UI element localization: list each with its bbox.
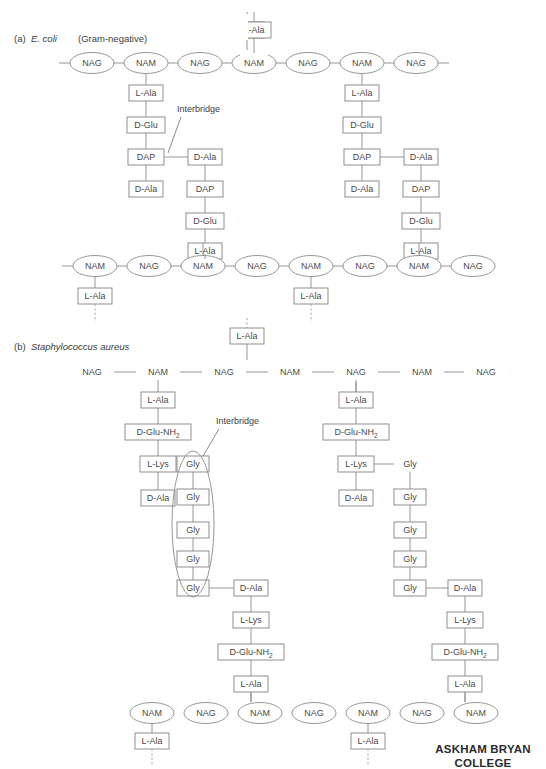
sugar-node: NAM bbox=[181, 256, 225, 277]
svg-text:D-Ala: D-Ala bbox=[147, 493, 170, 503]
panel-b: (b) Staphylococcus aureus L-Ala NAG NAM … bbox=[14, 318, 498, 765]
svg-text:D-Ala: D-Ala bbox=[345, 493, 368, 503]
sugar-node: NAM bbox=[397, 256, 441, 277]
svg-text:NAM: NAM bbox=[142, 708, 162, 718]
gly-box: Gly bbox=[177, 522, 209, 538]
svg-text:NAM: NAM bbox=[409, 261, 429, 271]
peptide-box: D-Glu-NH2 bbox=[323, 424, 389, 440]
gly-box: Gly bbox=[394, 489, 426, 505]
gly-box: Gly bbox=[177, 551, 209, 567]
gly-box: Gly bbox=[394, 551, 426, 567]
sugar-node: NAM bbox=[148, 367, 168, 377]
sugar-node: NAM bbox=[346, 703, 390, 724]
svg-text:L-Ala: L-Ala bbox=[141, 736, 162, 746]
peptide-box: L-Ala bbox=[351, 733, 385, 749]
svg-text:Gly: Gly bbox=[403, 459, 417, 469]
callout-label-interbridge-a: Interbridge bbox=[177, 104, 220, 114]
svg-text:NAG: NAG bbox=[463, 261, 483, 271]
svg-text:NAG: NAG bbox=[476, 367, 496, 377]
sugar-node: NAM bbox=[454, 703, 498, 724]
svg-text:L-Lys: L-Lys bbox=[345, 459, 367, 469]
svg-text:NAM: NAM bbox=[301, 261, 321, 271]
sugar-node: NAG bbox=[70, 53, 114, 74]
peptide-box: L-Lys bbox=[447, 612, 483, 628]
peptide-box: L-Ala bbox=[135, 733, 169, 749]
sugar-node: NAG bbox=[214, 367, 234, 377]
peptide-box: DAP bbox=[403, 181, 439, 197]
svg-text:L-Ala: L-Ala bbox=[84, 291, 105, 301]
svg-text:L-Lys: L-Lys bbox=[454, 615, 476, 625]
svg-text:NAG: NAG bbox=[139, 261, 159, 271]
peptide-box: L-Ala bbox=[448, 676, 482, 692]
sugar-node: NAG bbox=[82, 367, 102, 377]
panel-b-organism: Staphylococcus aureus bbox=[31, 341, 129, 352]
sugar-node: NAM bbox=[280, 367, 300, 377]
svg-text:NAM: NAM bbox=[352, 58, 372, 68]
svg-text:NAG: NAG bbox=[196, 708, 216, 718]
svg-text:L-Ala: L-Ala bbox=[357, 736, 378, 746]
peptide-box: L-Ala bbox=[230, 328, 264, 344]
svg-text:NAG: NAG bbox=[214, 367, 234, 377]
peptide-box: D-Ala bbox=[448, 580, 482, 596]
svg-text:NAM: NAM bbox=[280, 367, 300, 377]
sugar-node: NAG bbox=[343, 256, 387, 277]
peptidoglycan-structure-diagram: (a) E. coli (Gram-negative) L-Ala NAG bbox=[0, 0, 546, 769]
peptide-box: D-Glu bbox=[127, 117, 165, 133]
peptide-box: D-Ala bbox=[345, 181, 379, 197]
sugar-node: NAG bbox=[127, 256, 171, 277]
svg-text:L-Ala: L-Ala bbox=[454, 679, 475, 689]
svg-text:COLLEGE: COLLEGE bbox=[455, 757, 512, 769]
node-label-dglunh2: D-Glu-NH2 bbox=[334, 427, 378, 438]
svg-text:L-Ala: L-Ala bbox=[236, 331, 257, 341]
callout-leader-a bbox=[168, 117, 181, 153]
svg-text:Gly: Gly bbox=[403, 583, 417, 593]
svg-text:L-Ala: L-Ala bbox=[147, 395, 168, 405]
sugar-node: NAG bbox=[292, 703, 336, 724]
peptide-box: L-Ala bbox=[294, 288, 328, 304]
svg-text:NAM: NAM bbox=[148, 367, 168, 377]
svg-text:NAM: NAM bbox=[136, 58, 156, 68]
svg-text:L-Ala: L-Ala bbox=[345, 395, 366, 405]
gly-plain: Gly bbox=[403, 459, 417, 469]
svg-text:D-Ala: D-Ala bbox=[194, 152, 217, 162]
node-label-dglunh2: D-Glu-NH2 bbox=[229, 647, 273, 658]
callout-label-interbridge-b: Interbridge bbox=[216, 416, 259, 426]
svg-text:NAG: NAG bbox=[298, 58, 318, 68]
svg-text:NAG: NAG bbox=[190, 58, 210, 68]
peptide-box: D-Ala bbox=[129, 181, 163, 197]
svg-text:DAP: DAP bbox=[353, 152, 372, 162]
svg-text:Gly: Gly bbox=[186, 525, 200, 535]
svg-text:ASKHAM BRYAN: ASKHAM BRYAN bbox=[435, 743, 530, 755]
peptide-box: D-Ala bbox=[141, 490, 175, 506]
sugar-node: NAG bbox=[394, 53, 438, 74]
peptide-box: L-Ala bbox=[78, 288, 112, 304]
svg-text:NAM: NAM bbox=[244, 58, 264, 68]
peptide-box: DAP bbox=[344, 149, 380, 165]
sugar-node: NAM bbox=[289, 256, 333, 277]
svg-text:NAM: NAM bbox=[358, 708, 378, 718]
peptide-box: D-Glu-NH2 bbox=[432, 644, 498, 660]
watermark-askham-bryan-college: ASKHAM BRYAN COLLEGE bbox=[435, 743, 530, 769]
node-label-dglunh2: D-Glu-NH2 bbox=[136, 427, 180, 438]
sugar-node: NAM bbox=[412, 367, 432, 377]
peptide-box: D-Ala bbox=[234, 580, 268, 596]
svg-text:Gly: Gly bbox=[186, 459, 200, 469]
svg-text:Gly: Gly bbox=[403, 554, 417, 564]
peptide-box: D-Ala bbox=[339, 490, 373, 506]
peptide-box: DAP bbox=[187, 181, 223, 197]
peptide-box: L-Ala bbox=[234, 676, 268, 692]
svg-text:L-Lys: L-Lys bbox=[240, 615, 262, 625]
sugar-node: NAG bbox=[346, 367, 366, 377]
peptide-box: L-Ala bbox=[339, 392, 373, 408]
sugar-node: NAG bbox=[184, 703, 228, 724]
peptide-box: DAP bbox=[128, 149, 164, 165]
svg-text:NAG: NAG bbox=[304, 708, 324, 718]
sugar-node: NAG bbox=[476, 367, 496, 377]
svg-text:NAG: NAG bbox=[355, 261, 375, 271]
svg-text:NAG: NAG bbox=[412, 708, 432, 718]
svg-text:DAP: DAP bbox=[412, 184, 431, 194]
svg-text:DAP: DAP bbox=[196, 184, 215, 194]
panel-a-prefix: (a) bbox=[14, 33, 26, 44]
gly-box: Gly bbox=[177, 580, 209, 596]
svg-text:NAG: NAG bbox=[82, 58, 102, 68]
